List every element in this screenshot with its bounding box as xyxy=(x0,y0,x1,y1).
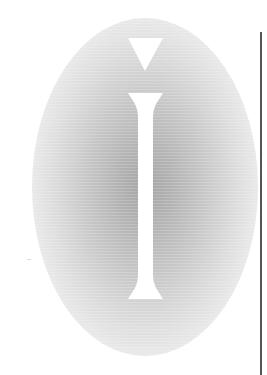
vertical-divider-line xyxy=(260,32,262,375)
noise-speck xyxy=(27,259,31,260)
ibeam-cursor-icon xyxy=(128,93,163,299)
cursor-graphic xyxy=(0,0,267,375)
caret-down-icon xyxy=(128,38,163,71)
